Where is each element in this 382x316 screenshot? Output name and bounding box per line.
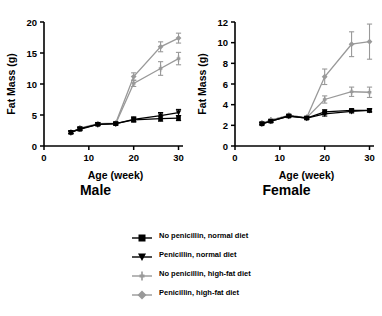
svg-text:0: 0 xyxy=(41,152,46,163)
svg-text:10: 10 xyxy=(275,152,286,163)
svg-text:8: 8 xyxy=(223,58,228,69)
svg-text:12: 12 xyxy=(217,17,228,28)
svg-text:0: 0 xyxy=(232,152,237,163)
legend: No penicillin, normal diet Penicillin, n… xyxy=(0,226,382,302)
diamond-icon xyxy=(131,287,153,299)
legend-item-label: No penicillin, normal diet xyxy=(153,231,248,240)
svg-text:20: 20 xyxy=(128,152,139,163)
svg-text:20: 20 xyxy=(319,152,330,163)
svg-text:15: 15 xyxy=(26,48,37,59)
svg-text:10: 10 xyxy=(26,79,37,90)
svg-text:0: 0 xyxy=(32,141,37,152)
svg-text:Age (week): Age (week) xyxy=(279,169,334,181)
legend-item: No penicillin, normal diet xyxy=(0,226,382,245)
panel-male: 051015200102030Age (week)Fat Mass (g) Ma… xyxy=(0,0,191,205)
triangle-down-icon xyxy=(131,249,153,261)
svg-text:30: 30 xyxy=(173,152,184,163)
female-chart-plot: 0246810120102030Age (week)Fat Mass (g) xyxy=(191,0,382,205)
svg-text:5: 5 xyxy=(32,110,38,121)
legend-item-label: Penicillin, normal diet xyxy=(153,250,237,259)
panel-caption-female: Female xyxy=(191,182,382,198)
square-icon xyxy=(131,230,153,242)
male-chart-plot: 051015200102030Age (week)Fat Mass (g) xyxy=(0,0,191,205)
legend-item: Penicillin, high-fat diet xyxy=(0,283,382,302)
svg-text:0: 0 xyxy=(223,141,228,152)
legend-item: Penicillin, normal diet xyxy=(0,245,382,264)
svg-text:Fat Mass (g): Fat Mass (g) xyxy=(196,53,208,114)
plus-icon xyxy=(131,268,153,280)
fat-mass-figure: 051015200102030Age (week)Fat Mass (g) Ma… xyxy=(0,0,382,316)
svg-text:4: 4 xyxy=(223,99,229,110)
chart-panels: 051015200102030Age (week)Fat Mass (g) Ma… xyxy=(0,0,382,205)
legend-item-label: Penicillin, high-fat diet xyxy=(153,288,239,297)
svg-text:10: 10 xyxy=(84,152,95,163)
legend-item: No penicillin, high-fat diet xyxy=(0,264,382,283)
svg-text:Age (week): Age (week) xyxy=(88,169,143,181)
svg-text:10: 10 xyxy=(217,37,228,48)
svg-text:30: 30 xyxy=(364,152,375,163)
svg-text:20: 20 xyxy=(26,17,37,28)
svg-text:Fat Mass (g): Fat Mass (g) xyxy=(5,53,17,114)
panel-female: 0246810120102030Age (week)Fat Mass (g) F… xyxy=(191,0,382,205)
svg-text:6: 6 xyxy=(223,79,228,90)
panel-caption-male: Male xyxy=(0,182,191,198)
svg-text:2: 2 xyxy=(223,120,228,131)
legend-item-label: No penicillin, high-fat diet xyxy=(153,269,251,278)
